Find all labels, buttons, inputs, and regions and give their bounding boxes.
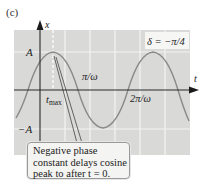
phase-label: δ = −π/4 [147,36,185,47]
pi-over-omega-label: π/ω [82,71,98,82]
amplitude-label: A [25,46,33,58]
callout-line-3: peak to after t = 0. [33,168,124,180]
callout-line-1: Negative phase [33,145,124,157]
panel-label: (c) [6,6,18,18]
two-pi-over-omega-label: 2π/ω [130,93,151,104]
t-axis-label: t [194,73,197,84]
callout-box: Negative phase constant delays cosine pe… [27,142,130,179]
neg-amplitude-label: −A [18,123,32,135]
t-axis-arrow-icon [189,87,199,94]
callout-line-2: constant delays cosine [33,157,124,169]
x-axis-arrow-icon [37,20,44,30]
x-axis-label: x [44,19,50,30]
